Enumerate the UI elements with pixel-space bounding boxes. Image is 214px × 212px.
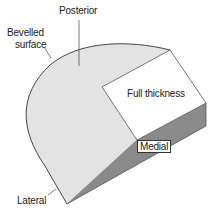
bevelled-label-line1: Bevelled xyxy=(7,27,44,38)
full-thickness-label: Full thickness xyxy=(127,88,185,99)
bevelled-label-line2: surface xyxy=(15,39,46,50)
lateral-label: Lateral xyxy=(17,195,46,206)
medial-label: Medial xyxy=(137,140,171,153)
lateral-leader xyxy=(48,189,56,195)
posterior-label: Posterior xyxy=(59,5,97,16)
